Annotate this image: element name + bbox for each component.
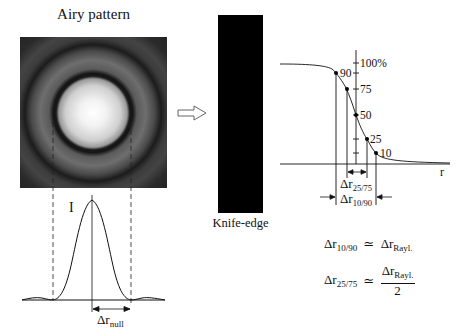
r-axis-label: r bbox=[440, 165, 444, 179]
edge-response-graph bbox=[280, 50, 450, 205]
knife-edge-label: Knife-edge bbox=[212, 216, 269, 230]
equation-10-90: Δr10/90 ≃ ΔrRayl. bbox=[324, 236, 413, 253]
dr-10-90-label: Δr10/90 bbox=[340, 191, 372, 208]
svg-text:50: 50 bbox=[360, 109, 372, 121]
airy-profile-curve bbox=[22, 200, 165, 300]
dr-null-label: Δrnull bbox=[97, 312, 124, 329]
rayleigh-half-fraction: ΔrRayl. 2 bbox=[381, 263, 415, 298]
hollow-right-arrow-icon bbox=[178, 106, 206, 120]
intensity-profile bbox=[22, 195, 165, 312]
svg-text:90: 90 bbox=[340, 67, 352, 79]
svg-text:10: 10 bbox=[380, 147, 392, 159]
intensity-label: I bbox=[69, 200, 74, 215]
svg-text:75: 75 bbox=[360, 83, 372, 95]
tick-labels: 100% 90 75 50 25 10 bbox=[340, 57, 392, 159]
dr-25-75-arrow bbox=[348, 170, 366, 175]
svg-text:100%: 100% bbox=[360, 57, 387, 69]
svg-text:25: 25 bbox=[370, 133, 382, 145]
knife-edge-block bbox=[218, 15, 263, 213]
airy-pattern-image bbox=[20, 37, 167, 188]
equation-25-75: Δr25/75 ≃ ΔrRayl. 2 bbox=[324, 263, 415, 298]
dr-null-arrow bbox=[93, 307, 130, 312]
